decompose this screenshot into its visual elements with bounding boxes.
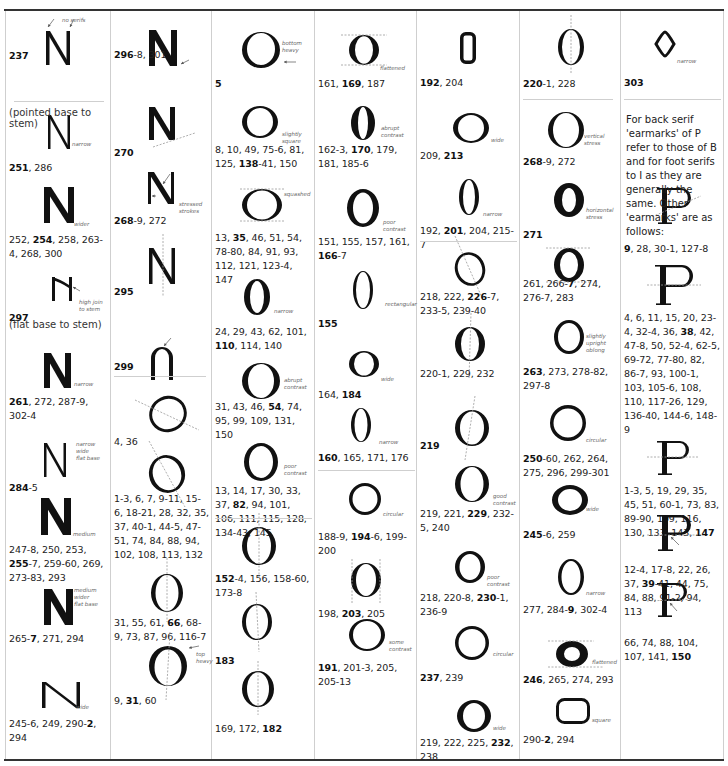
- primary-reference: 39: [642, 578, 655, 589]
- primary-reference: 232: [491, 737, 511, 748]
- page-reference-list: 237: [9, 49, 109, 63]
- reference-text: 265-: [9, 633, 30, 644]
- annotation-label: medium: [73, 531, 96, 538]
- annotation-label: horizontalstress: [586, 207, 613, 221]
- letter-o-glyph-icon: [457, 700, 491, 736]
- letter-o-glyph-icon: [453, 113, 489, 147]
- annotation-label: wider: [74, 221, 89, 228]
- page-reference-list: 265-7, 271, 294: [9, 632, 109, 646]
- primary-reference: 226: [467, 291, 487, 302]
- annotation-line: rectangular: [385, 301, 417, 308]
- reference-text: , 239: [440, 672, 464, 683]
- reference-text: -41, 150: [258, 158, 297, 169]
- reference-text: -5: [29, 482, 38, 493]
- annotation-label: circular: [586, 437, 606, 444]
- annotation-line: medium: [73, 531, 96, 538]
- annotation-line: squashed: [284, 191, 310, 198]
- column-o-4: flattened161, 169, 187abruptcontrast162-…: [315, 11, 417, 759]
- page-reference-list: 220-1, 228: [523, 77, 618, 91]
- letter-o-glyph-icon: [558, 29, 584, 69]
- reference-text: 1-3, 6, 7, 9-11, 15-6, 18-21, 28, 32, 35…: [114, 493, 209, 560]
- annotation-line: upright: [586, 340, 606, 347]
- annotation-label: poorcontrast: [487, 574, 510, 588]
- letter-o-glyph-icon: [349, 619, 385, 655]
- reference-text: 161,: [318, 78, 342, 89]
- primary-reference: 230: [477, 592, 497, 603]
- reference-text: -1, 228: [543, 78, 576, 89]
- explanatory-paragraph: For back serif 'earmarks' of P refer to …: [626, 113, 720, 239]
- primary-reference: 82: [233, 499, 246, 510]
- annotation-line: vertical: [584, 133, 605, 140]
- letter-o-glyph-icon: [558, 559, 584, 599]
- page-reference-list: 188-9, 194-6, 199-200: [318, 530, 415, 558]
- annotation-line: top heavy: [196, 651, 213, 665]
- primary-reference: 166: [318, 250, 338, 261]
- reference-text: -6, 259: [543, 529, 576, 540]
- column-o-3: bottomheavy5slightlysquare8, 10, 49, 75-…: [212, 11, 315, 759]
- primary-reference: 150: [671, 651, 691, 662]
- letter-o-glyph-icon: [550, 405, 586, 445]
- page-reference-list: 9, 28, 30-1, 127-8: [624, 242, 721, 256]
- letter-o-glyph-icon: [149, 455, 185, 497]
- primary-reference: 152: [215, 573, 235, 584]
- letter-n-glyph-icon: [149, 248, 175, 288]
- subheading-flat-base: (flat base to stem): [9, 319, 102, 330]
- annotation-line: slightly: [282, 131, 302, 138]
- primary-reference: 229: [467, 508, 487, 519]
- page-reference-list: 31, 43, 46, 54, 74, 95, 99, 109, 131, 15…: [215, 400, 312, 442]
- reference-text: 31, 43, 46,: [215, 401, 268, 412]
- primary-reference: 35: [233, 232, 246, 243]
- primary-reference: 5: [215, 78, 222, 89]
- annotation-line: flat base: [74, 601, 98, 608]
- primary-reference: 268: [114, 215, 134, 226]
- page-reference-list: 220-1, 229, 232: [420, 367, 517, 381]
- page-reference-list: 296-8, 301: [114, 48, 209, 62]
- page-reference-list: 295: [114, 285, 209, 299]
- reference-text: 220-1, 229, 232: [420, 368, 494, 379]
- annotation-label: narrow: [586, 590, 605, 597]
- letter-o-glyph-icon: [554, 320, 584, 358]
- annotation-line: high join: [79, 299, 103, 306]
- reference-text: 164,: [318, 389, 342, 400]
- annotation-line: narrow: [677, 58, 696, 65]
- column-n-o-2: 296-8, 301270stressedstrokes268-9, 27229…: [111, 11, 212, 759]
- letter-n-glyph-icon: [44, 187, 74, 227]
- annotation-label: narrow: [274, 308, 293, 315]
- letter-o-glyph-icon: [242, 527, 276, 569]
- primary-reference: 254: [33, 234, 53, 245]
- primary-reference: 220: [523, 78, 543, 89]
- annotation-line: contrast: [284, 384, 307, 391]
- annotation-label: poorcontrast: [284, 463, 307, 477]
- section-divider: [114, 376, 206, 377]
- letter-o-glyph-icon: [554, 183, 584, 221]
- reference-text: 218, 220-8,: [420, 592, 477, 603]
- annotation-label: wide: [586, 506, 599, 513]
- page-reference-list: 218, 220-8, 230-1, 236-9: [420, 591, 517, 619]
- annotation-line: contrast: [487, 581, 510, 588]
- page-reference-list: 219, 222, 225, 232, 238: [420, 736, 517, 764]
- letter-o-glyph-icon: [351, 563, 381, 601]
- primary-reference: 237: [9, 50, 29, 61]
- primary-reference: 54: [268, 401, 281, 412]
- annotation-label: circular: [383, 511, 403, 518]
- reference-text: 162-3,: [318, 144, 351, 155]
- letter-p-glyph-icon: [657, 515, 691, 555]
- letter-o-glyph-icon: [455, 466, 489, 506]
- page-reference-list: 219: [420, 439, 517, 453]
- page-reference-list: 152-4, 156, 158-60, 173-8: [215, 572, 312, 600]
- letter-o-glyph-icon: [455, 327, 485, 365]
- primary-reference: 303: [624, 77, 644, 88]
- page-reference-list: 161, 169, 187: [318, 77, 415, 91]
- annotation-label: flattened: [380, 65, 405, 72]
- letter-o-glyph-icon: [242, 32, 280, 72]
- letter-n-glyph-icon: [148, 172, 174, 208]
- reference-text: , 60: [139, 695, 157, 706]
- primary-reference: 66: [167, 617, 180, 628]
- annotation-label: slightlyuprightoblong: [586, 333, 606, 354]
- reference-text: 218, 222,: [420, 291, 467, 302]
- letter-n-glyph-icon: [149, 107, 175, 144]
- annotation-line: square: [592, 717, 611, 724]
- letter-o-glyph-icon: [548, 112, 584, 152]
- page-reference-list: 219, 221, 229, 232-5, 240: [420, 507, 517, 535]
- letter-o-glyph-icon: [351, 106, 375, 144]
